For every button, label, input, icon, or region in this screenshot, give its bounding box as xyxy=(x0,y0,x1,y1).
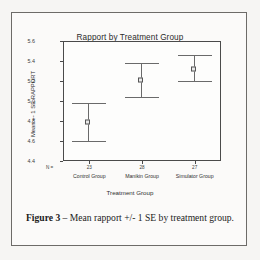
x-tick-label: Simulator Group xyxy=(176,173,214,179)
figure-container: Rapport by Treatment Group 4.44.64.85.05… xyxy=(11,12,247,246)
x-axis-label: Treatment Group xyxy=(12,189,248,196)
group-n-value: 28 xyxy=(139,165,144,170)
figure-caption-label: Figure 3 xyxy=(26,212,60,223)
error-bar-cap-lower xyxy=(72,141,106,142)
x-tick-mark xyxy=(195,161,196,164)
y-tick-mark xyxy=(60,61,63,62)
error-bar-cap-upper xyxy=(125,63,159,64)
error-bar-cap-upper xyxy=(72,103,106,104)
error-bar xyxy=(72,103,106,141)
error-bar-cap-lower xyxy=(178,81,212,82)
x-tick-label: Control Group xyxy=(73,173,106,179)
error-bar xyxy=(178,55,212,81)
chart: Rapport by Treatment Group 4.44.64.85.05… xyxy=(12,13,248,191)
y-tick-mark xyxy=(60,141,63,142)
data-point-marker xyxy=(138,78,143,83)
x-tick-mark xyxy=(142,161,143,164)
figure-caption-dash: – xyxy=(60,212,70,223)
error-bar-cap-lower xyxy=(125,97,159,98)
error-bar xyxy=(125,63,159,97)
figure-caption-text: Mean rapport +/- 1 SE by treatment group… xyxy=(70,212,234,223)
y-tick-mark xyxy=(60,81,63,82)
x-tick-mark xyxy=(89,161,90,164)
y-tick-mark xyxy=(60,161,63,162)
group-n-value: 23 xyxy=(87,165,92,170)
y-tick-mark xyxy=(60,121,63,122)
error-bar-cap-upper xyxy=(178,55,212,56)
n-caption: N = xyxy=(46,165,53,170)
data-point-marker xyxy=(191,67,196,72)
data-point-marker xyxy=(85,120,90,125)
y-tick-mark xyxy=(60,41,63,42)
document-page: Rapport by Treatment Group 4.44.64.85.05… xyxy=(0,0,260,260)
figure-caption: Figure 3 – Mean rapport +/- 1 SE by trea… xyxy=(26,211,234,225)
x-tick-label: Manikin Group xyxy=(125,173,159,179)
y-axis-label: Mean +- 1 SE RAPPORT xyxy=(30,52,36,156)
y-tick-label: 4.4 xyxy=(9,158,35,164)
y-tick-mark xyxy=(60,101,63,102)
group-n-value: 27 xyxy=(192,165,197,170)
y-tick-label: 5.6 xyxy=(9,38,35,44)
